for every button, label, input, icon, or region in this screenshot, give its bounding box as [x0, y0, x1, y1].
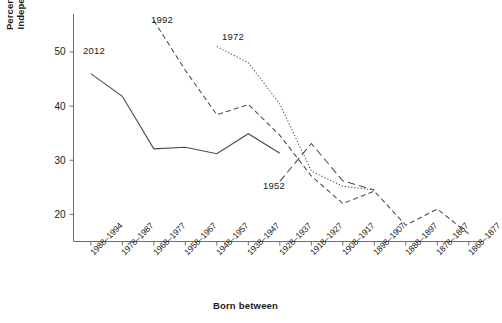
- series-annotation-2012: 2012: [83, 45, 105, 56]
- y-tick-label: 30: [54, 155, 66, 166]
- y-tick-label: 20: [54, 209, 66, 220]
- x-axis-title: Born between: [0, 300, 491, 311]
- y-tick-label: 40: [54, 101, 66, 112]
- series-line-2012: [91, 74, 280, 154]
- series-annotation-1992: 1992: [151, 14, 173, 25]
- y-tick-label: 50: [54, 46, 66, 57]
- series-line-1992: [154, 21, 469, 234]
- series-annotation-1952: 1952: [263, 180, 285, 191]
- series-line-1952: [280, 143, 375, 190]
- y-tick-group: 20304050: [54, 46, 73, 220]
- series-line-1972: [217, 47, 375, 191]
- axes: [74, 14, 484, 242]
- series-group: [91, 21, 469, 234]
- series-annotation-1972: 1972: [222, 31, 244, 42]
